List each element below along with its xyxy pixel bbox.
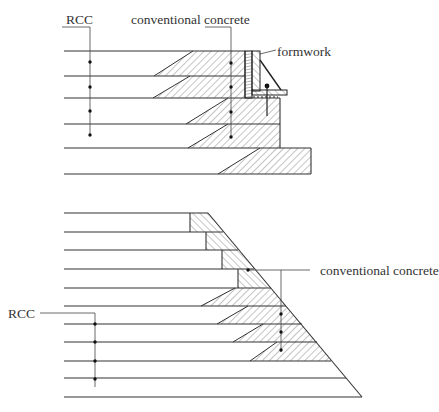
bottom-diagram xyxy=(40,213,362,397)
top-conventional-concrete-label: conventional concrete xyxy=(131,13,250,27)
formwork-label: formwork xyxy=(277,45,331,59)
top-diagram xyxy=(62,27,311,174)
figure-caption-cutoff xyxy=(0,405,437,412)
bottom-conventional-concrete-label: conventional concrete xyxy=(320,264,439,278)
bottom-rcc-label: RCC xyxy=(8,307,35,321)
top-rcc-label: RCC xyxy=(66,13,93,27)
bottom-cc-hatch xyxy=(190,213,331,361)
